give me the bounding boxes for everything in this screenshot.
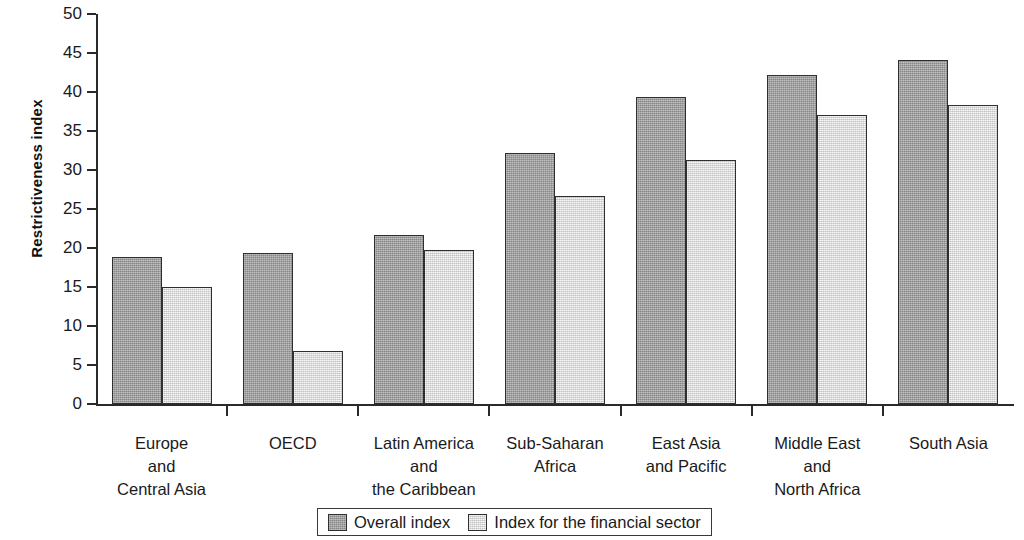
bar	[555, 196, 605, 404]
x-axis-category-label: East Asia and Pacific	[621, 432, 752, 478]
chart-legend: Overall index Index for the financial se…	[317, 508, 712, 536]
y-axis-tick-label: 35	[38, 123, 82, 139]
bar	[505, 153, 555, 404]
x-axis-tick	[226, 406, 228, 416]
y-axis-tick	[87, 325, 96, 327]
x-axis-tick	[751, 406, 753, 416]
bar-chart-figure: Restrictiveness index 051015202530354045…	[0, 0, 1024, 540]
x-axis-category-label: OECD	[227, 432, 358, 455]
x-axis-category-label: Europe and Central Asia	[96, 432, 227, 501]
bar	[424, 250, 474, 404]
legend-swatch-financial-sector-index	[468, 514, 487, 531]
y-axis-tick	[87, 364, 96, 366]
legend-item: Overall index	[328, 514, 450, 531]
x-axis-tick	[357, 406, 359, 416]
y-axis-tick-label: 30	[38, 162, 82, 178]
y-axis-tick-label: 25	[38, 201, 82, 217]
bar	[162, 287, 212, 404]
bar	[293, 351, 343, 404]
y-axis-tick-label: 50	[38, 6, 82, 22]
y-axis-tick-label: 20	[38, 240, 82, 256]
bar	[948, 105, 998, 404]
y-axis-tick-label: 15	[38, 279, 82, 295]
bar	[817, 115, 867, 404]
y-axis-tick	[87, 247, 96, 249]
x-axis-category-label: Latin America and the Caribbean	[358, 432, 489, 501]
y-axis-tick	[87, 130, 96, 132]
y-axis-tick	[87, 208, 96, 210]
y-axis-line	[96, 14, 98, 406]
x-axis-tick	[882, 406, 884, 416]
y-axis-tick	[87, 169, 96, 171]
legend-label-overall-index: Overall index	[354, 514, 450, 531]
y-axis-tick	[87, 13, 96, 15]
y-axis-tick-label: 0	[38, 396, 82, 412]
plot-area: 05101520253035404550 Europe and Central …	[96, 14, 1014, 404]
x-axis-category-label: Sub-Saharan Africa	[489, 432, 620, 478]
y-axis-tick-label: 10	[38, 318, 82, 334]
bar	[767, 75, 817, 404]
x-axis-line	[96, 404, 1014, 406]
legend-label-financial-sector-index: Index for the financial sector	[494, 514, 700, 531]
bar	[374, 235, 424, 404]
bar	[112, 257, 162, 404]
y-axis-tick	[87, 403, 96, 405]
y-axis-tick	[87, 286, 96, 288]
bar	[686, 160, 736, 404]
x-axis-tick	[620, 406, 622, 416]
y-axis-tick-label: 45	[38, 45, 82, 61]
bar	[636, 97, 686, 404]
y-axis-tick-label: 5	[38, 357, 82, 373]
bar	[898, 60, 948, 404]
y-axis-tick	[87, 91, 96, 93]
x-axis-tick	[488, 406, 490, 416]
x-axis-category-label: South Asia	[883, 432, 1014, 455]
legend-swatch-overall-index	[328, 514, 347, 531]
x-axis-category-label: Middle East and North Africa	[752, 432, 883, 501]
y-axis-tick	[87, 52, 96, 54]
bar	[243, 253, 293, 404]
legend-item: Index for the financial sector	[468, 514, 700, 531]
y-axis-tick-label: 40	[38, 84, 82, 100]
